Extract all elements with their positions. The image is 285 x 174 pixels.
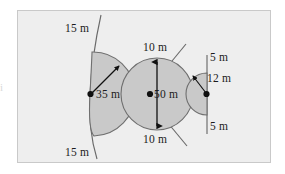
- label-bottom-left-offset: 15 m: [65, 146, 89, 158]
- label-right-top-offset: 5 m: [210, 51, 228, 63]
- left-center-dot: [87, 91, 93, 97]
- right-center-dot: [203, 91, 209, 97]
- diagram-canvas: 15 m 15 m 35 m 10 m 50 m 10 m 5 m 12 m 5…: [0, 0, 285, 174]
- figure-container: 15 m 15 m 35 m 10 m 50 m 10 m 5 m 12 m 5…: [0, 0, 285, 174]
- middle-center-dot: [147, 91, 153, 97]
- label-top-left-offset: 15 m: [65, 22, 89, 34]
- label-middle-diameter: 50 m: [154, 88, 178, 100]
- label-right-bottom-offset: 5 m: [210, 120, 228, 132]
- label-middle-bottom-offset: 10 m: [143, 133, 167, 145]
- label-middle-top-offset: 10 m: [143, 41, 167, 53]
- label-left-radius: 35 m: [96, 88, 120, 100]
- label-right-radius: 12 m: [207, 72, 231, 84]
- page-edge-artifact: i: [0, 82, 4, 93]
